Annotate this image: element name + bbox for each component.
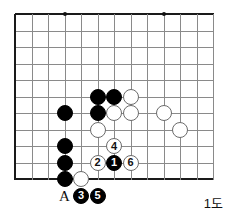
stone-white — [90, 122, 106, 138]
grid-line-vertical — [81, 14, 82, 180]
stone-white — [172, 122, 188, 138]
move-stone-6: 6 — [123, 155, 139, 171]
go-diagram-figure: 123456A 1도 — [0, 0, 230, 214]
grid-line-vertical — [180, 14, 181, 180]
stone-white — [73, 171, 89, 187]
stone-black — [57, 138, 73, 154]
star-point — [63, 12, 67, 16]
move-number: 1 — [111, 157, 117, 168]
grid-line-vertical — [32, 14, 33, 180]
move-stone-3: 3 — [73, 188, 89, 204]
stone-black — [57, 155, 73, 171]
move-number: 6 — [127, 157, 133, 168]
move-stone-5: 5 — [90, 188, 106, 204]
move-stone-2: 2 — [90, 155, 106, 171]
go-board: 123456A — [0, 0, 230, 214]
point-label-a: A — [59, 187, 70, 204]
stone-black — [57, 105, 73, 121]
stone-white — [123, 89, 139, 105]
stone-white — [156, 105, 172, 121]
move-number: 2 — [94, 157, 100, 168]
stone-white — [106, 105, 122, 121]
stone-black — [90, 105, 106, 121]
grid-line-vertical — [14, 14, 16, 180]
stone-black — [57, 171, 73, 187]
stone-black — [90, 89, 106, 105]
star-point — [162, 12, 166, 16]
grid-line-vertical — [197, 14, 198, 180]
diagram-caption: 1도 — [204, 193, 224, 212]
grid-line-vertical — [48, 14, 49, 180]
stone-white — [123, 105, 139, 121]
move-stone-4: 4 — [106, 138, 122, 154]
move-number: 5 — [94, 190, 100, 201]
grid-line-vertical — [213, 14, 214, 180]
grid-line-vertical — [147, 14, 148, 180]
stone-black — [106, 89, 122, 105]
move-number: 4 — [111, 140, 117, 151]
grid-line-vertical — [164, 14, 165, 180]
move-number: 3 — [78, 190, 84, 201]
move-stone-1: 1 — [106, 155, 122, 171]
